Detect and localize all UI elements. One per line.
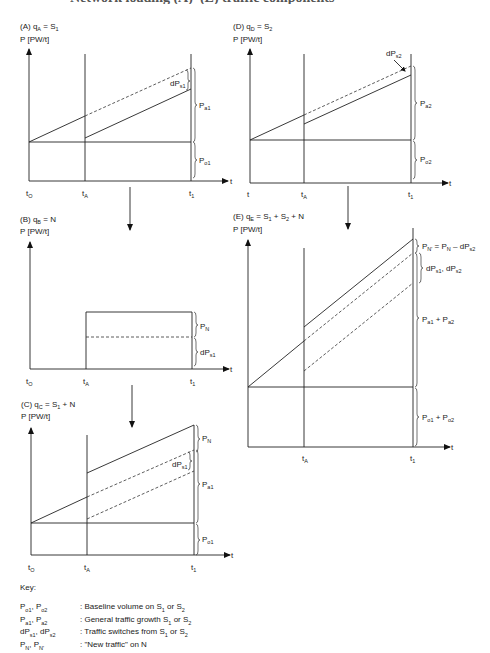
panel-a-growth-line [29, 116, 85, 142]
panel-b-x-axis-label: t [230, 365, 233, 374]
panel-d-tick-ta: tA [301, 190, 307, 200]
panel-e-title: (E) qE = S1 + S2 + N [233, 212, 304, 222]
panel-c-brace-dps1 [188, 452, 192, 470]
panel-b-tick-t1: t1 [190, 377, 195, 387]
panel-c-x-axis-label: t [231, 551, 234, 560]
panel-c-brace-po1 [196, 524, 200, 555]
panel-d-switched-line [304, 75, 411, 124]
panel-e: (E) qE = S1 + S2 + N P [PW/t] PN' = PN –… [233, 212, 475, 464]
panel-c-tick-ta: tA [84, 563, 90, 573]
key-row-switches: dPs1, dPs2 : Traffic switches from S1 or… [20, 627, 191, 640]
panel-d-label-pa2: Pa2 [420, 99, 431, 109]
panel-e-brace-dps [419, 253, 423, 283]
panel-d: (D) qD = S2 P [PW/t] dPs2 Pa2 Po2 t tA t… [233, 22, 452, 200]
panel-d-brace-po2 [413, 141, 417, 179]
key-symbol: PN, PN' [20, 640, 80, 653]
panel-e-label-po: Po1 + Po2 [422, 413, 454, 423]
panel-b-tick-ta: tA [83, 377, 89, 387]
panel-e-dashed-lower [304, 283, 413, 371]
panel-c-label-pa1: Pa1 [202, 480, 213, 490]
panel-a-brace-po1 [193, 142, 197, 178]
panel-e-growth-line [248, 341, 304, 387]
panel-b-title: (B) qB = N [20, 215, 56, 225]
key-row-baseline: Po1, Po2 : Baseline volume on S1 or S2 [20, 602, 191, 615]
key-legend: Key: Po1, Po2 : Baseline volume on S1 or… [20, 583, 191, 652]
panel-b-brace-pn [194, 312, 198, 337]
key-symbol: Po1, Po2 [20, 602, 80, 615]
panel-d-y-axis-label: P [PW/t] [233, 35, 262, 44]
key-symbol: dPs1, dPs2 [20, 627, 80, 640]
panel-e-tick-t1: t1 [410, 454, 415, 464]
panel-c-growth-line [31, 497, 87, 523]
panel-a-tick-ta: tA [82, 189, 88, 199]
panel-e-label-dps: dPs1, dPs2 [426, 264, 462, 274]
panel-d-tick-t: t [247, 190, 250, 199]
panel-a-label-pa1: Pa1 [199, 101, 210, 111]
panel-e-dashed-upper [304, 253, 413, 341]
panel-c-label-dps1: dPs1 [172, 460, 188, 470]
panel-e-x-axis-label: t [451, 443, 454, 452]
panel-b-tick-to: tO [26, 377, 33, 387]
panel-c-tick-to: tO [28, 563, 35, 573]
panel-e-y-axis-label: P [PW/t] [233, 225, 262, 234]
panel-c-label-po1: Po1 [202, 535, 213, 545]
panel-c-tick-t1: t1 [191, 563, 196, 573]
panel-d-tick-t1: t1 [408, 190, 413, 200]
key-symbol: Pa1, Pa2 [20, 615, 80, 628]
panel-e-tick-ta: tA [302, 454, 308, 464]
panel-d-dashed-line [304, 66, 411, 115]
panel-a-tick-to: tO [26, 189, 33, 199]
panel-b: (B) qB = N P [PW/t] PN dPs1 tO tA t1 t [20, 215, 233, 387]
panel-a-title: (A) qA = S1 [20, 22, 59, 32]
panel-c-dashed-upper [87, 450, 194, 497]
panel-c: (C) qC = S1 + N P [PW/t] PN dPs1 Pa1 Po1… [21, 400, 234, 573]
panel-b-label-dps1: dPs1 [200, 348, 216, 358]
panel-a-label-dps1: dPs1 [170, 79, 186, 89]
key-description: : Traffic switches from S1 or S2 [80, 627, 188, 640]
panel-d-dps2-pointer-arrow [394, 60, 405, 71]
panel-c-brace-pa1 [196, 450, 200, 523]
key-row-new-traffic: PN, PN' : "New traffic" on N [20, 640, 191, 653]
panel-d-label-po2: Po2 [420, 155, 431, 165]
panel-e-total-line [304, 239, 413, 327]
panel-a-switched-line [85, 89, 191, 138]
panel-d-growth-line [250, 115, 304, 140]
panel-d-brace-pa2 [413, 66, 417, 140]
key-description: : "New traffic" on N [80, 640, 147, 653]
panel-a-brace-dps1 [186, 70, 190, 90]
diagram-canvas: (A) qA = S1 P [PW/t] dPs1 Pa1 Po1 tO tA … [0, 0, 490, 653]
panel-b-label-pn: PN [200, 322, 209, 332]
panel-a-dashed-line [85, 68, 191, 116]
panel-a-tick-t1: t1 [189, 189, 194, 199]
panel-e-brace-po [415, 388, 419, 446]
key-description: : General traffic growth S1 or S2 [80, 615, 191, 628]
panel-e-label-pn-prime: PN' = PN – dPs2 [422, 242, 475, 252]
panel-b-brace-dps1 [194, 338, 198, 366]
panel-c-brace-pn [196, 425, 200, 452]
panel-a-x-axis-label: t [230, 177, 233, 186]
panel-c-dashed-lower [87, 471, 194, 519]
panel-a-y-axis-label: P [PW/t] [20, 35, 49, 44]
key-row-growth: Pa1, Pa2 : General traffic growth S1 or … [20, 615, 191, 628]
panel-e-brace-pa [415, 253, 419, 387]
panel-a: (A) qA = S1 P [PW/t] dPs1 Pa1 Po1 tO tA … [20, 22, 233, 199]
key-description: : Baseline volume on S1 or S2 [80, 602, 185, 615]
key-title: Key: [20, 583, 191, 592]
panel-a-label-po1: Po1 [199, 156, 210, 166]
panel-e-label-pa: Pa1 + Pa2 [422, 315, 454, 325]
panel-d-label-dps2: dPs2 [386, 49, 402, 59]
panel-b-y-axis-label: P [PW/t] [20, 227, 49, 236]
panel-c-label-pn: PN [202, 434, 211, 444]
panel-e-brace-pn-prime [415, 239, 419, 253]
panel-c-title: (C) qC = S1 + N [21, 400, 75, 410]
panel-c-y-axis-label: P [PW/t] [21, 412, 50, 421]
panel-a-brace-pa1 [193, 68, 197, 142]
panel-d-title: (D) qD = S2 [233, 22, 272, 32]
panel-d-x-axis-label: t [449, 179, 452, 188]
